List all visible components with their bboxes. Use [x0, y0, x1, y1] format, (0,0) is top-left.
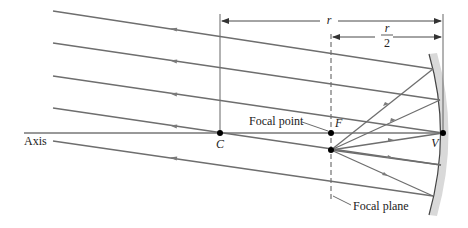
dimension-half-r: r 2	[333, 21, 441, 50]
arrow-icon	[170, 124, 178, 129]
focal-plane-leader	[333, 196, 351, 205]
vertex-point	[440, 130, 446, 136]
center-of-curvature-point	[217, 130, 223, 136]
reflected-ray-1	[331, 69, 433, 150]
focal-plane-image-point	[328, 147, 334, 153]
dimension-r: r	[222, 13, 441, 27]
label-v: V	[431, 136, 440, 150]
label-f: F	[334, 116, 343, 130]
concave-mirror-diagram: r r 2	[0, 0, 468, 228]
reflected-ray-arrows	[382, 102, 396, 176]
incident-ray-5	[53, 141, 433, 196]
label-focal-plane: Focal plane	[353, 199, 409, 213]
incident-ray-arrows	[170, 27, 178, 161]
label-r: r	[327, 13, 332, 27]
label-c: C	[216, 137, 225, 151]
focal-point-leader	[302, 122, 328, 131]
arrow-icon	[387, 155, 393, 158]
diagram-canvas: r r 2	[0, 0, 468, 228]
arrow-icon	[170, 59, 178, 64]
arrow-icon	[382, 172, 388, 176]
label-axis: Axis	[24, 134, 47, 148]
label-focal-point: Focal point	[249, 114, 304, 128]
label-half-r-denominator: 2	[384, 36, 390, 50]
reflected-ray-3	[331, 133, 443, 150]
arrow-icon	[170, 92, 178, 97]
focal-point	[328, 130, 334, 136]
label-half-r-numerator: r	[385, 21, 390, 35]
incident-ray-2	[53, 43, 440, 100]
incident-ray-1	[53, 11, 433, 69]
